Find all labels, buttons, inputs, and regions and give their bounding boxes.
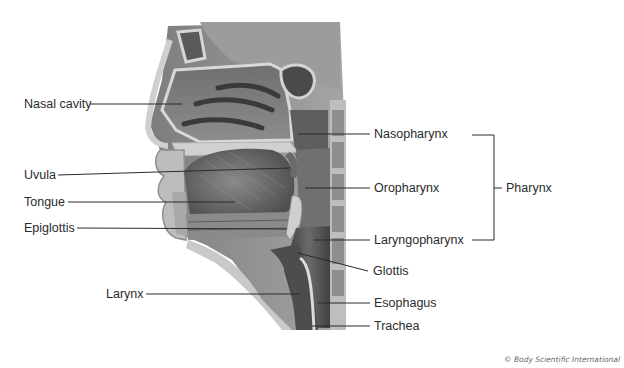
- leader-glottis: [298, 253, 368, 271]
- leader-epiglottis: [77, 228, 287, 229]
- label-oropharynx: Oropharynx: [374, 181, 439, 195]
- label-pharynx-group: Pharynx: [506, 181, 552, 195]
- copyright-credit: © Body Scientific International: [504, 355, 620, 364]
- label-epiglottis: Epiglottis: [24, 221, 75, 235]
- label-larynx: Larynx: [106, 287, 144, 301]
- label-uvula: Uvula: [24, 168, 56, 182]
- label-nasopharynx: Nasopharynx: [374, 127, 448, 141]
- label-laryngopharynx: Laryngopharynx: [374, 233, 464, 247]
- label-esophagus: Esophagus: [374, 296, 437, 310]
- leader-uvula: [58, 168, 290, 175]
- label-glottis: Glottis: [373, 264, 408, 278]
- label-nasal-cavity: Nasal cavity: [24, 97, 91, 111]
- pharynx-bracket: [472, 135, 494, 240]
- label-trachea: Trachea: [374, 319, 419, 333]
- label-tongue: Tongue: [24, 195, 65, 209]
- pharynx-diagram: Nasal cavity Uvula Tongue Epiglottis Lar…: [0, 0, 624, 368]
